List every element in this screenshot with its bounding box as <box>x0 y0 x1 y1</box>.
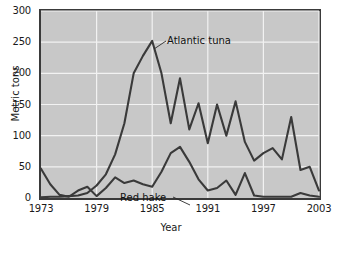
x-tick-1997: 1997 <box>243 203 283 214</box>
x-tick-1979: 1979 <box>77 203 117 214</box>
x-axis-title: Year <box>0 222 342 233</box>
fisheries-line-chart: 050100150200250300 197319791985199119972… <box>0 0 342 257</box>
x-tick-1985: 1985 <box>132 203 172 214</box>
x-tick-1973: 1973 <box>21 203 61 214</box>
y-tick-250: 250 <box>1 36 31 47</box>
y-axis-title: Metric tons <box>10 49 21 139</box>
series-label-atlantic-tuna: Atlantic tuna <box>167 35 231 46</box>
y-tick-300: 300 <box>1 5 31 16</box>
x-tick-1991: 1991 <box>188 203 228 214</box>
series-path-atlantic-tuna <box>41 41 319 197</box>
x-tick-2003: 2003 <box>299 203 339 214</box>
y-tick-0: 0 <box>1 192 31 203</box>
y-tick-50: 50 <box>1 161 31 172</box>
series-lines <box>41 41 319 197</box>
series-label-red-hake: Red hake <box>120 192 166 203</box>
